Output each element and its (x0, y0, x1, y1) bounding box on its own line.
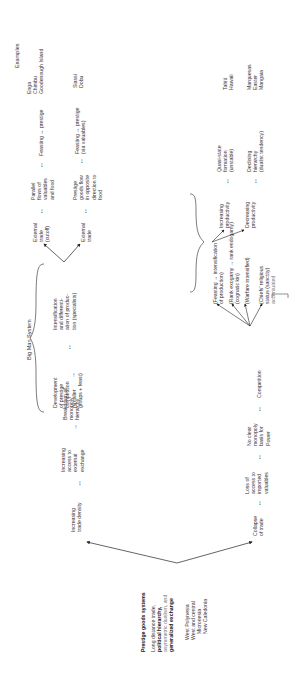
loss-of-access: Loss of access to imported valuables (244, 472, 269, 494)
increasing-access: Increasing access to external exchange (60, 448, 85, 472)
quasi-state: Quasi-state formation (unstable) (216, 145, 235, 172)
arrow-right-icon: ↔ (76, 480, 82, 486)
connector-lines (0, 0, 304, 674)
increasing-trade-density: Increasing trade density (70, 502, 82, 532)
arrow-double-icon: ↔ (256, 454, 262, 460)
arrow-double-icon: ↔ (256, 500, 262, 506)
arrow-double-icon: ↔ (66, 344, 72, 350)
collapse-of-trade: Collapse of trade (252, 516, 264, 536)
arrow-double-icon: ↔ (38, 162, 44, 168)
decreasing-productivity: Decreasing productivity (244, 202, 256, 228)
outcome-warfare: (Warfare intensified) (244, 257, 250, 304)
increasing-productivity: Increasing productivity (218, 202, 230, 228)
declining-hierarchy: Declining hierarchy (dualist tendency) (246, 131, 265, 172)
external-trade: External trade (80, 223, 92, 242)
outcome-chiefs: (Chiefs' religious status (sanctity) acc… (258, 266, 277, 304)
examples-increasing: Tahiti Hawaii (222, 74, 234, 90)
arrow-double-icon: ↔ (224, 178, 230, 184)
arrow-double-icon: ↔ (256, 406, 262, 412)
outcome-rank: (Rank exogamy → rank endogamy) (cognatic… (228, 222, 240, 304)
arrow-double-icon: ↔ (252, 178, 258, 184)
root-example-4: New Caledonia (202, 599, 208, 634)
feasting-prestige-a: Feasting ↔ prestige (38, 110, 44, 156)
no-clear-monopoly: No clear monopoly basis for Power (246, 424, 271, 447)
external-trade-cutoff: External trade (cutoff) (32, 223, 51, 242)
root-line-4: generalized exchange (168, 598, 174, 652)
arrow-right-icon: → (72, 424, 78, 430)
parallel-flows: Parallel flows of valuables and food (30, 178, 55, 200)
arrow-double-icon: ↔ (38, 208, 44, 214)
competition: Competition (256, 370, 262, 398)
diagram-canvas: Prestige goods systems Long distance tra… (0, 0, 304, 674)
arrow-double-icon: ↔ (82, 208, 88, 214)
arrow-double-icon: ↔ (78, 158, 84, 164)
examples-row-b: Siassi Dobu (72, 74, 84, 88)
big-man-label: Big Man System (26, 319, 32, 360)
examples-decreasing: Marquesas Easter Mangaia (246, 64, 265, 90)
feasting-prestige-b: Feasting ↔ prestige (via valuables) (74, 108, 86, 154)
examples-header: Examples (14, 43, 20, 68)
intensification: Intensification and differenti- ation of… (52, 293, 77, 330)
root-title: Prestige goods systems (140, 592, 146, 652)
prestige-goods-flow: Prestige goods flow in opposite directio… (72, 175, 103, 200)
examples-row-a: Enga Chimbu Goodenough Island (26, 49, 45, 94)
prestige-competition: Development of prestige competition (sma… (52, 373, 83, 408)
outcome-feasting: (Feasting → intensification of productio… (212, 243, 224, 304)
